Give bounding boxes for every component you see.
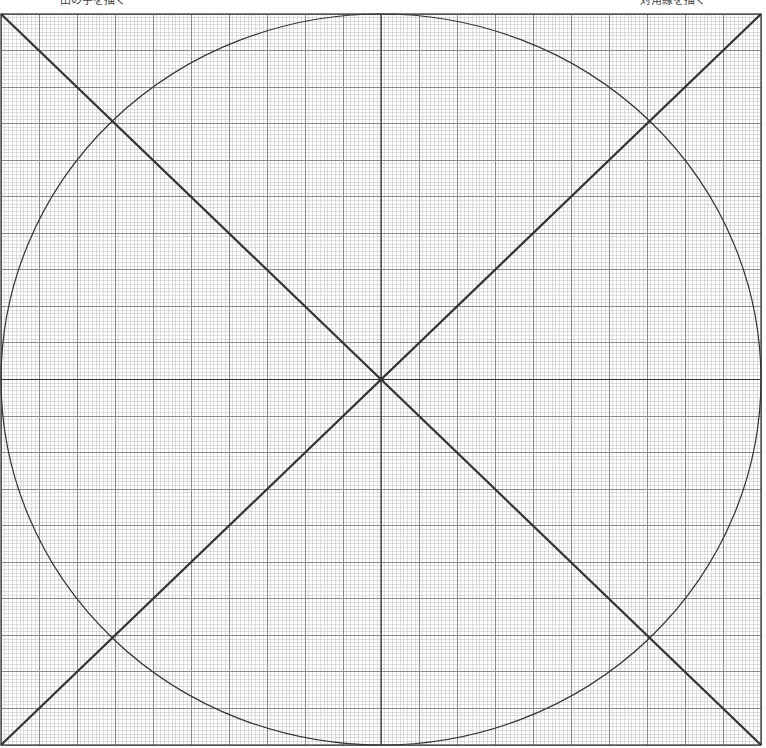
center-point (379, 377, 384, 382)
graph-paper-canvas (0, 0, 766, 748)
